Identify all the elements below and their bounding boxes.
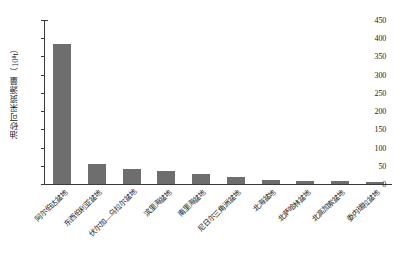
bar xyxy=(123,169,141,184)
x-axis-label: 北萨哈林盆地 xyxy=(275,186,312,223)
x-axis-label: 滨里海盆地 xyxy=(141,186,174,219)
x-axis-line xyxy=(44,184,392,185)
x-axis-labels: 阿尔伯达盆地东西伯利亚盆地伏尔加—乌拉尔盆地滨里海盆地南里海盆地尼日尔三角洲盆地… xyxy=(44,186,404,264)
bar-chart: 油砂可采资源量（10⁸t） 05010015020025030035040045… xyxy=(0,0,404,265)
bar xyxy=(88,164,106,184)
bar xyxy=(157,171,175,184)
y-tick-mark xyxy=(41,184,45,185)
bar xyxy=(296,181,314,184)
x-axis-label: 北海盆地 xyxy=(250,186,278,214)
bar xyxy=(227,177,245,184)
bar xyxy=(331,181,349,184)
y-axis-title: 油砂可采资源量（10⁸t） xyxy=(8,22,24,162)
bars-layer xyxy=(45,20,392,184)
bar xyxy=(53,44,71,184)
x-axis-label: 北高加索盆地 xyxy=(309,186,346,223)
plot-area: 050100150200250300350400450 xyxy=(44,20,392,185)
bar xyxy=(192,174,210,184)
bar xyxy=(262,180,280,184)
x-axis-label: 委内瑞拉盆地 xyxy=(344,186,381,223)
bar xyxy=(366,182,384,184)
x-axis-label: 南里海盆地 xyxy=(175,186,208,219)
